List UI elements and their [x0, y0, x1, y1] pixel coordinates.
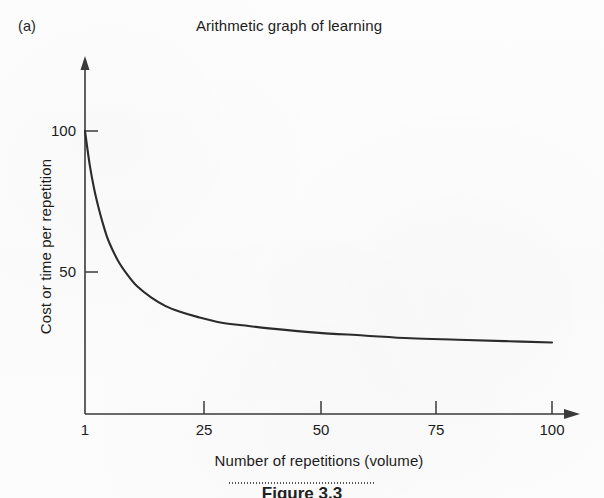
y-tick-label-50: 50 — [32, 263, 76, 280]
caption-text: Figure 3.3 — [0, 484, 604, 498]
y-tick-label-100: 100 — [32, 122, 76, 139]
figure-panel-a: (a) Arithmetic graph of learning Cost or… — [0, 0, 604, 498]
figure-caption-cropped: Figure 3.3 — [0, 482, 604, 498]
x-axis-arrowhead — [564, 409, 580, 419]
x-tick-label-50: 50 — [298, 421, 344, 438]
x-tick-label-1: 1 — [62, 421, 108, 438]
x-tick-label-100: 100 — [529, 421, 575, 438]
y-axis-arrowhead — [81, 56, 90, 70]
x-tick-label-25: 25 — [181, 421, 227, 438]
x-tick-label-75: 75 — [413, 421, 459, 438]
learning-curve-line — [85, 131, 552, 343]
